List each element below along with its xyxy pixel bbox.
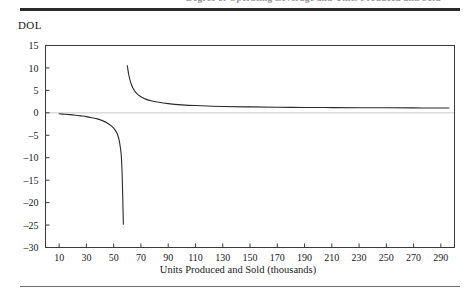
y-tick-label: 10 [29,63,39,74]
y-tick-label: 0 [34,107,39,118]
x-tick-label: 270 [406,252,421,263]
x-tick-label: 250 [379,252,394,263]
y-tick-label: 5 [34,85,39,96]
x-tick-label: 90 [163,252,173,263]
plot-frame [46,46,455,248]
y-tick-label: –30 [23,242,39,253]
x-tick-label: 110 [188,252,203,263]
x-tick-label: 170 [270,252,285,263]
x-tick-label: 130 [215,252,230,263]
x-tick-label: 290 [433,252,448,263]
y-tick-label: –20 [23,197,39,208]
figure-container: Degree of Operating Leverage and Units P… [0,0,476,298]
y-tick-label: –25 [23,220,39,231]
x-tick-label: 30 [81,252,91,263]
y-tick-label: –15 [23,175,39,186]
y-tick-label: –5 [28,130,39,141]
y-tick-label: 15 [29,40,39,51]
x-tick-label: 190 [297,252,312,263]
x-tick-label: 230 [352,252,367,263]
y-tick-label: –10 [23,152,39,163]
x-tick-label: 150 [243,252,258,263]
x-tick-label: 210 [324,252,339,263]
dol-curve-branch-2 [127,66,449,108]
x-tick-label: 70 [136,252,146,263]
x-tick-label: 50 [109,252,119,263]
x-tick-label: 10 [54,252,64,263]
bottom-rule-divider [20,286,460,287]
chart-plot-area: 151050–5–10–15–20–25–3010305070901101301… [0,0,476,298]
dol-curve-branch-1 [59,114,123,224]
x-axis-title: Units Produced and Sold (thousands) [0,264,476,275]
